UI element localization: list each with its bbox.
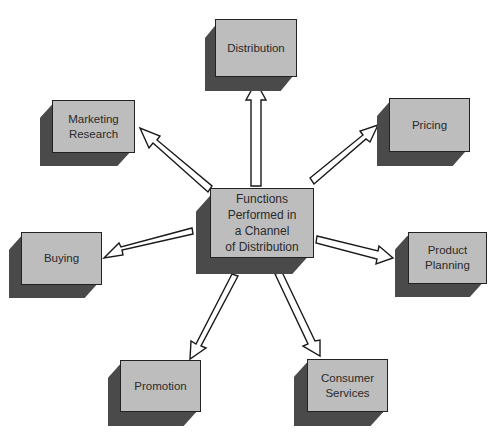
box-face: Distribution: [215, 19, 297, 77]
function-box-promotion: Promotion: [108, 360, 201, 426]
box-face: Product Planning: [408, 232, 487, 284]
function-label: Product Planning: [425, 243, 470, 273]
function-label: Distribution: [227, 41, 285, 56]
function-label: Consumer Services: [321, 371, 374, 401]
function-box-distribution: Distribution: [205, 19, 297, 91]
function-box-marketing-research: Marketing Research: [40, 100, 135, 166]
function-box-buying: Buying: [9, 232, 102, 298]
function-label: Marketing Research: [68, 112, 119, 142]
box-face: Consumer Services: [307, 359, 388, 412]
center-box: Functions Performed in a Channel of Dist…: [196, 188, 314, 274]
function-box-consumer-services: Consumer Services: [294, 359, 388, 426]
arrow-to-buying: [104, 228, 193, 258]
arrow-to-promotion: [190, 274, 238, 359]
arrow-to-distribution: [246, 82, 266, 186]
arrow-to-consumer-services: [275, 272, 320, 356]
arrow-to-marketing-research: [140, 128, 212, 192]
box-face: Marketing Research: [52, 100, 135, 153]
box-face: Functions Performed in a Channel of Dist…: [210, 188, 314, 258]
function-box-product-planning: Product Planning: [395, 232, 487, 297]
arrow-to-product-planning: [316, 236, 393, 264]
arrow-to-pricing: [310, 125, 378, 184]
box-face: Pricing: [389, 98, 470, 152]
center-label: Functions Performed in a Channel of Dist…: [225, 191, 298, 255]
box-face: Promotion: [120, 360, 201, 412]
function-label: Pricing: [412, 118, 447, 133]
box-face: Buying: [21, 232, 102, 285]
function-label: Buying: [44, 251, 79, 266]
function-label: Promotion: [134, 379, 186, 394]
function-box-pricing: Pricing: [377, 98, 470, 166]
